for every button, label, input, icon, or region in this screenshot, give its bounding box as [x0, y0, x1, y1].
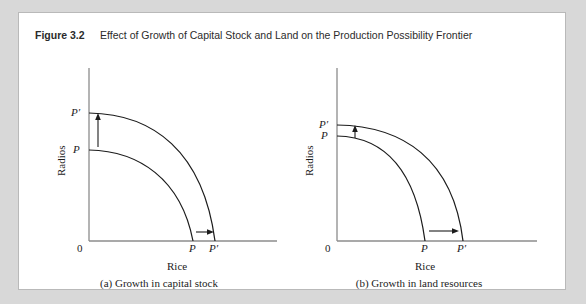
chart-panel-a: P′ P P P′ 0 Radios Rice (a) Growth in ca…: [31, 51, 287, 289]
y-intercept-label-expanded-a: P′: [71, 106, 80, 118]
origin-label-a: 0: [77, 242, 83, 254]
y-intercept-label-original-a: P: [73, 143, 80, 155]
figure-title-row: Figure 3.2 Effect of Growth of Capital S…: [35, 25, 555, 43]
horizontal-shift-arrow-a: [196, 229, 214, 235]
x-axis-label-a: Rice: [167, 260, 187, 272]
ppf-curve-original-b: [337, 136, 425, 241]
x-intercept-label-original-b: P: [421, 242, 428, 254]
x-intercept-label-expanded-b: P′: [457, 242, 466, 254]
panel-caption-a: (a) Growth in capital stock: [31, 277, 287, 289]
origin-label-b: 0: [325, 242, 331, 254]
ppf-curve-expanded-b: [337, 125, 463, 241]
x-intercept-label-expanded-a: P′: [209, 242, 218, 254]
y-axis-label-b: Radios: [303, 145, 315, 176]
figure-number: Figure 3.2: [35, 29, 85, 41]
ppf-curve-expanded-a: [89, 113, 215, 241]
chart-panel-b: P′ P P P′ 0 Radios Rice (b) Growth in la…: [291, 51, 547, 289]
y-axis-label-a: Radios: [55, 145, 67, 176]
y-intercept-label-original-b: P: [321, 129, 328, 141]
panel-caption-b: (b) Growth in land resources: [291, 277, 547, 289]
ppf-curve-original-a: [89, 150, 193, 241]
page-title: Effect of Growth of Capital Stock and La…: [100, 29, 472, 41]
horizontal-shift-arrow-b: [429, 228, 459, 234]
figure-container: Figure 3.2 Effect of Growth of Capital S…: [18, 12, 566, 290]
ppf-plot-a: [31, 51, 287, 289]
vertical-shift-arrow-a: [95, 113, 101, 147]
x-intercept-label-original-a: P: [189, 242, 196, 254]
x-axis-label-b: Rice: [415, 260, 435, 272]
